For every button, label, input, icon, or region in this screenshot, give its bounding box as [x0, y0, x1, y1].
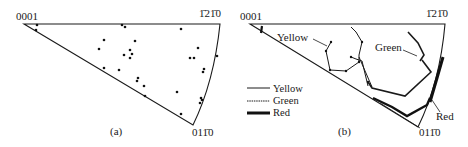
corner-label-0110-b: 011̄0: [419, 126, 441, 138]
red-path-thin-inner: [380, 103, 420, 128]
yellow-arrow: [313, 39, 327, 46]
scatter-point: [121, 24, 124, 27]
scatter-point: [98, 48, 101, 51]
yellow-path-c: [359, 57, 372, 87]
yellow-path: [326, 27, 362, 71]
green-path-upper: [408, 32, 424, 61]
annotation-red: Red: [436, 110, 454, 122]
panel-b: Yellow Green Red Yellow Green Red 0001 1…: [240, 7, 454, 138]
triangle-outline-a: [24, 24, 220, 125]
legend: Yellow Green Red: [247, 83, 303, 118]
scatter-point: [137, 77, 140, 80]
red-path-bottom: [373, 98, 430, 116]
scatter-point: [180, 113, 183, 116]
scatter-point: [189, 57, 192, 60]
corner-label-1210-a: 1̄21̄0: [199, 7, 222, 19]
annotation-yellow: Yellow: [277, 31, 308, 43]
red-path-right-edge: [430, 57, 443, 102]
scatter-point: [143, 85, 146, 88]
scatter-point: [203, 68, 206, 71]
scatter-point: [118, 69, 121, 72]
scatter-point: [124, 26, 127, 29]
scatter-point: [131, 53, 134, 56]
scatter-point: [36, 24, 39, 27]
scatter-point: [201, 99, 204, 102]
legend-label-red: Red: [273, 107, 291, 118]
corner-label-0110-a: 011̄0: [192, 126, 214, 138]
legend-label-yellow: Yellow: [273, 83, 303, 94]
scatter-point: [197, 47, 200, 50]
legend-label-green: Green: [273, 95, 299, 106]
scatter-point: [136, 80, 139, 83]
scatter-point: [129, 57, 132, 60]
scatter-point: [144, 95, 147, 98]
scatter-point: [176, 91, 179, 94]
panel-a: 0001 1̄21̄0 011̄0 (a): [16, 7, 222, 138]
scatter-points-a: [35, 24, 219, 116]
scatter-point: [193, 57, 196, 60]
scatter-point: [180, 28, 183, 31]
green-arrow: [403, 50, 417, 56]
scatter-point: [129, 49, 132, 52]
scatter-point: [134, 40, 137, 43]
scatter-point: [103, 39, 106, 42]
scatter-point: [123, 54, 126, 57]
scatter-point: [103, 67, 106, 70]
annotation-green: Green: [375, 41, 402, 53]
scatter-point: [199, 102, 202, 105]
caption-a: (a): [110, 125, 123, 138]
corner-label-1210-b: 1̄21̄0: [426, 7, 449, 19]
red-path-near-0001: [261, 26, 262, 33]
figure-canvas: 0001 1̄21̄0 011̄0 (a) Yellow Green Red: [0, 0, 468, 147]
scatter-point: [216, 55, 219, 58]
scatter-point: [35, 29, 38, 32]
green-path-loop: [368, 60, 431, 96]
scatter-point: [202, 71, 205, 74]
corner-label-0001-b: 0001: [240, 10, 262, 22]
corner-label-0001-a: 0001: [16, 10, 38, 22]
caption-b: (b): [338, 125, 351, 138]
